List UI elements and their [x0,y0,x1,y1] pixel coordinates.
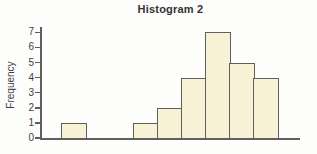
y-tick-label: 0 [14,132,34,144]
y-tick-label: 1 [14,117,34,129]
histogram-figure: Histogram 2 Frequency 01234567 [0,0,317,154]
y-tick-label: 5 [14,57,34,69]
histogram-bar [229,63,255,141]
histogram-bar [181,78,207,140]
y-tick-label: 7 [14,26,34,38]
y-tick-label: 4 [14,72,34,84]
y-axis-line [40,27,42,140]
histogram-bar [157,108,183,140]
x-axis-line [40,138,300,140]
y-tick-label: 6 [14,41,34,53]
histogram-bar [205,32,231,140]
histogram-bar [253,78,279,140]
y-tick-label: 3 [14,87,34,99]
chart-title: Histogram 2 [41,3,300,15]
y-tick-label: 2 [14,102,34,114]
